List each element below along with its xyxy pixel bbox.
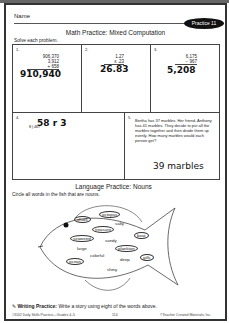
footer-right: ©Teacher Created Materials, Inc. xyxy=(160,313,211,317)
math-instruction: Solve each problem. xyxy=(14,38,58,43)
problem-number: 4. xyxy=(16,115,19,120)
fish-word[interactable]: sandy xyxy=(105,238,117,243)
fish-word[interactable]: plankton xyxy=(115,245,138,252)
answer-4[interactable]: 58 r 3 xyxy=(37,118,67,128)
fish-word[interactable]: treasure xyxy=(92,226,114,233)
fish-word[interactable]: deep xyxy=(120,257,130,262)
fish-word[interactable]: shiny xyxy=(107,267,117,272)
fish-word[interactable]: colorful xyxy=(90,253,104,258)
math-title: Math Practice: Mixed Computation xyxy=(6,29,225,36)
writing-practice: ✎ Writing Practice: Write a story using … xyxy=(12,303,157,309)
problem-3: 3. 6,175 − 967 5,208 xyxy=(151,45,219,113)
name-label: Name xyxy=(14,13,30,19)
problem-number: 1. xyxy=(16,47,19,52)
answer-5[interactable]: 39 marbles xyxy=(153,161,204,171)
problem-number: 2. xyxy=(85,47,88,52)
footer-page: 114 xyxy=(112,313,118,317)
problem-number: 5. xyxy=(128,115,131,120)
footer-left: #3102 Daily Skills Practice—Grades 4–5 xyxy=(12,313,75,317)
pencil-icon: ✎ xyxy=(12,303,16,309)
word-problem-text: Bertha has 37 marbles. Her friend, Antho… xyxy=(135,118,215,143)
problem-number: 3. xyxy=(154,47,157,52)
problem-2: 2. 1.27 x .23 26.83 xyxy=(82,45,151,113)
fish-word[interactable]: salty xyxy=(115,221,124,226)
fish-word[interactable]: large xyxy=(77,246,87,251)
name-line[interactable] xyxy=(14,23,184,24)
fish-word[interactable]: ocean xyxy=(66,258,84,265)
fish-eye-icon xyxy=(64,223,69,228)
writing-text: Write a story using eight of the words a… xyxy=(58,303,157,309)
problem-4: 4. 8 ) 467 58 r 3 xyxy=(13,113,125,179)
problem-5: 5. Bertha has 37 marbles. Her friend, An… xyxy=(125,113,219,179)
answer-3[interactable]: 5,208 xyxy=(167,65,195,75)
writing-label: Writing Practice: xyxy=(17,303,57,309)
language-instruction: Circle all words in the fish that are no… xyxy=(12,192,100,197)
problem-1: 1. 906,370 3,912 + 658 910,940 xyxy=(13,45,82,113)
language-title: Language Practice: Nouns xyxy=(4,183,223,190)
answer-1[interactable]: 910,940 xyxy=(20,69,61,79)
fish-word[interactable]: gills xyxy=(140,254,154,261)
answer-2[interactable]: 26.83 xyxy=(100,64,128,74)
problem-grid: 1. 906,370 3,912 + 658 910,940 2. 1.27 x… xyxy=(12,44,220,180)
fish-word[interactable]: shark xyxy=(74,216,91,223)
fish-word[interactable]: seaweed xyxy=(70,235,94,242)
fish-word[interactable]: boat xyxy=(134,232,149,239)
practice-badge: Practice 11 xyxy=(184,18,224,29)
